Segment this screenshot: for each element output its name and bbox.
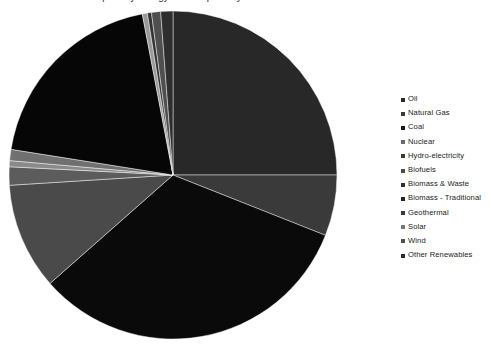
legend-item-label: Wind — [408, 234, 426, 248]
legend-item-label: Biomass - Traditional — [408, 191, 481, 205]
legend-item-label: Natural Gas — [408, 106, 450, 120]
legend-item[interactable]: Other Renewables — [401, 248, 489, 262]
legend-swatch-icon — [401, 126, 405, 130]
legend-item[interactable]: Biomass - Traditional — [401, 191, 489, 205]
legend-item[interactable]: Wind — [401, 234, 489, 248]
legend-swatch-icon — [401, 225, 405, 229]
legend-item-label: Biomass & Waste — [408, 177, 469, 191]
legend-item[interactable]: Geothermal — [401, 206, 489, 220]
pie-chart-figure: Global primary energy consumption by sou… — [0, 0, 491, 347]
pie-slice[interactable] — [173, 11, 337, 175]
chart-legend: OilNatural GasCoalNuclearHydro-electrici… — [401, 92, 489, 262]
legend-item-label: Nuclear — [408, 135, 435, 149]
legend-item[interactable]: Hydro-electricity — [401, 149, 489, 163]
legend-item-label: Geothermal — [408, 206, 449, 220]
legend-swatch-icon — [401, 211, 405, 215]
legend-swatch-icon — [401, 197, 405, 201]
legend-item-label: Other Renewables — [408, 248, 473, 262]
legend-swatch-icon — [401, 98, 405, 102]
legend-item-label: Oil — [408, 92, 418, 106]
legend-item[interactable]: Biofuels — [401, 163, 489, 177]
legend-item[interactable]: Biomass & Waste — [401, 177, 489, 191]
legend-swatch-icon — [401, 154, 405, 158]
legend-item[interactable]: Solar — [401, 220, 489, 234]
legend-item[interactable]: Coal — [401, 120, 489, 134]
legend-swatch-icon — [401, 254, 405, 258]
legend-item[interactable]: Nuclear — [401, 135, 489, 149]
legend-item-label: Solar — [408, 220, 426, 234]
legend-swatch-icon — [401, 112, 405, 116]
legend-swatch-icon — [401, 140, 405, 144]
legend-item-label: Biofuels — [408, 163, 436, 177]
legend-item[interactable]: Oil — [401, 92, 489, 106]
legend-item-label: Hydro-electricity — [408, 149, 464, 163]
pie-slices-group — [9, 11, 337, 339]
legend-swatch-icon — [401, 169, 405, 173]
legend-item-label: Coal — [408, 120, 424, 134]
legend-swatch-icon — [401, 239, 405, 243]
legend-item[interactable]: Natural Gas — [401, 106, 489, 120]
legend-swatch-icon — [401, 183, 405, 187]
